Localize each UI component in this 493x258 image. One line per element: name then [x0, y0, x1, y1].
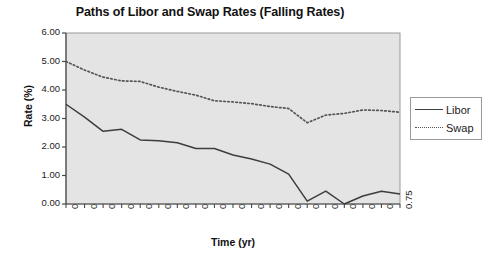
legend-item-swap: Swap — [415, 119, 481, 137]
legend-line-dotted-icon — [415, 123, 443, 133]
legend-label-swap: Swap — [443, 122, 474, 134]
plot-background — [66, 33, 400, 204]
chart-legend: Libor Swap — [410, 97, 482, 140]
chart-container: Paths of Libor and Swap Rates (Falling R… — [0, 0, 493, 258]
x-axis-ticks — [66, 204, 400, 208]
legend-line-solid-icon — [415, 105, 443, 115]
legend-item-libor: Libor — [415, 101, 481, 119]
legend-label-libor: Libor — [443, 104, 470, 116]
